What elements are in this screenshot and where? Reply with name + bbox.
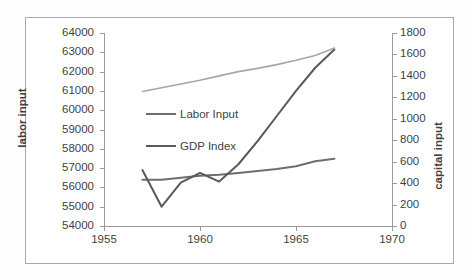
left-tick-label: 63000 — [62, 46, 94, 57]
right-axis-line — [392, 33, 393, 227]
right-tick-label: 1600 — [400, 48, 426, 59]
right-tick-label: 1800 — [400, 27, 426, 38]
legend-swatch-labor-input — [146, 113, 176, 116]
right-tick-mark — [393, 162, 397, 163]
right-axis-title: capital input — [432, 122, 444, 190]
right-tick-label: 1000 — [400, 113, 426, 124]
bottom-tick-mark — [296, 227, 297, 231]
bottom-tick-label: 1955 — [74, 234, 134, 245]
left-tick-label: 62000 — [62, 66, 94, 77]
right-tick-label: 200 — [400, 199, 419, 210]
plot-area — [104, 33, 392, 226]
left-tick-label: 57000 — [62, 162, 94, 173]
left-tick-label: 59000 — [62, 124, 94, 135]
right-tick-label: 400 — [400, 177, 419, 188]
right-tick-mark — [393, 76, 397, 77]
right-tick-mark — [393, 183, 397, 184]
left-tick-label: 61000 — [62, 85, 94, 96]
bottom-tick-mark — [392, 227, 393, 231]
bottom-tick-label: 1970 — [362, 234, 422, 245]
legend-item-gdp-index: GDP Index — [146, 140, 236, 152]
bottom-tick-label: 1965 — [266, 234, 326, 245]
series-line-gdp-index — [142, 49, 334, 206]
series-line-capital-input — [142, 48, 334, 91]
left-tick-label: 64000 — [62, 27, 94, 38]
right-tick-mark — [393, 205, 397, 206]
right-tick-mark — [393, 226, 397, 227]
right-tick-mark — [393, 119, 397, 120]
right-tick-label: 1400 — [400, 70, 426, 81]
right-tick-label: 600 — [400, 156, 419, 167]
left-tick-label: 55000 — [62, 201, 94, 212]
legend-label-gdp-index: GDP Index — [180, 140, 236, 152]
right-tick-mark — [393, 33, 397, 34]
left-axis-title: labor input — [16, 88, 28, 147]
right-tick-mark — [393, 97, 397, 98]
right-tick-mark — [393, 54, 397, 55]
right-tick-label: 800 — [400, 134, 419, 145]
bottom-axis-line — [104, 226, 393, 227]
bottom-tick-label: 1960 — [170, 234, 230, 245]
legend-item-labor-input: Labor Input — [146, 108, 238, 120]
bottom-tick-mark — [200, 227, 201, 231]
left-tick-label: 58000 — [62, 143, 94, 154]
right-tick-label: 1200 — [400, 91, 426, 102]
left-tick-label: 56000 — [62, 181, 94, 192]
left-tick-label: 54000 — [62, 220, 94, 231]
legend-swatch-gdp-index — [146, 145, 176, 148]
chart-figure: 5400055000560005700058000590006000061000… — [0, 0, 474, 276]
series-line-labor-input — [142, 159, 334, 180]
right-tick-label: 0 — [400, 220, 406, 231]
right-tick-mark — [393, 140, 397, 141]
bottom-tick-mark — [104, 227, 105, 231]
series-lines — [104, 33, 392, 226]
left-tick-label: 60000 — [62, 104, 94, 115]
legend-label-labor-input: Labor Input — [180, 108, 238, 120]
